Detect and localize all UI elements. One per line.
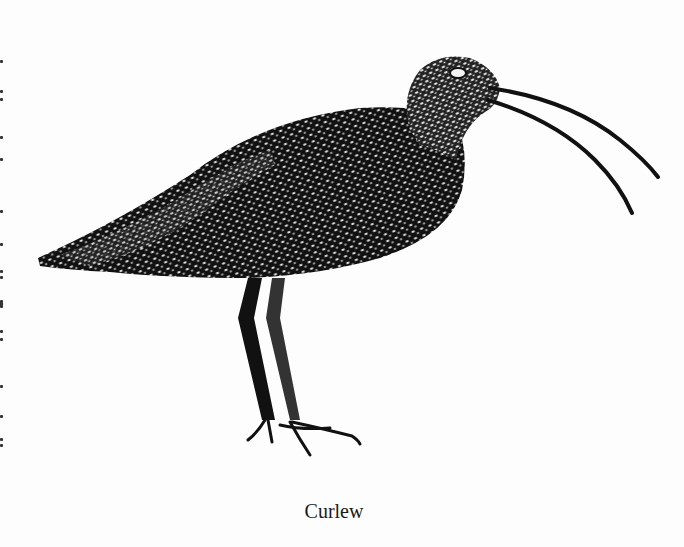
bird-bill: [488, 88, 658, 213]
bird-head: [407, 57, 500, 161]
book-page: Curlew: [0, 0, 684, 547]
figure-caption: Curlew: [0, 500, 684, 523]
bird-feet: [248, 420, 360, 455]
caption-text: Curlew: [305, 500, 364, 523]
bird-legs: [238, 278, 300, 420]
curlew-illustration: [0, 0, 684, 480]
bird-body: [38, 107, 465, 278]
